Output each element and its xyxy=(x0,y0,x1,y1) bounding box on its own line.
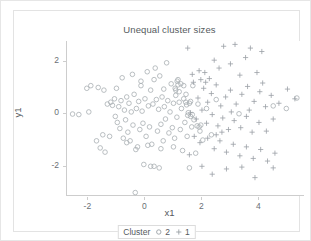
scatter-point xyxy=(162,104,167,109)
scatter-point xyxy=(171,101,176,106)
scatter-point xyxy=(254,70,259,75)
legend-entry-1[interactable]: 1 xyxy=(175,227,190,237)
x-tick-mark xyxy=(201,197,202,200)
plot-area-wrapper xyxy=(66,41,304,196)
scatter-point xyxy=(184,92,189,97)
scatter-point xyxy=(201,86,206,91)
scatter-point xyxy=(77,112,82,117)
scatter-point xyxy=(87,110,92,115)
scatter-point xyxy=(169,82,174,87)
scatter-point xyxy=(232,118,237,123)
scatter-point xyxy=(203,80,208,85)
scatter-point xyxy=(171,145,176,150)
scatter-point xyxy=(258,147,263,152)
scatter-point xyxy=(226,127,231,132)
scatter-point xyxy=(168,110,173,115)
scatter-point xyxy=(157,166,162,171)
scatter-point xyxy=(190,72,195,77)
scatter-point xyxy=(98,146,103,151)
scatter-point xyxy=(153,66,158,71)
scatter-point xyxy=(204,121,209,126)
scatter-point xyxy=(180,148,185,153)
y-tick-mark xyxy=(63,166,66,167)
scatter-point xyxy=(214,132,219,137)
scatter-point xyxy=(145,69,150,74)
scatter-point xyxy=(197,68,202,73)
scatter-point xyxy=(156,107,161,112)
scatter-point xyxy=(139,79,144,84)
scatter-point xyxy=(122,108,127,113)
scatter-point xyxy=(239,92,244,97)
legend-title: Cluster xyxy=(123,227,150,237)
scatter-point xyxy=(177,100,182,105)
scatter-point xyxy=(271,104,276,109)
scatter-point xyxy=(143,97,148,102)
scatter-point xyxy=(212,58,217,63)
scatter-point xyxy=(172,136,177,141)
scatter-point xyxy=(164,61,169,66)
scatter-point xyxy=(178,127,183,132)
scatter-point xyxy=(198,77,203,82)
scatter-point xyxy=(159,146,164,151)
x-tick-mark xyxy=(258,197,259,200)
scatter-series-1 xyxy=(185,42,297,180)
y-tick-mark xyxy=(63,113,66,114)
scatter-point xyxy=(202,70,207,75)
scatter-point xyxy=(142,162,147,167)
x-tick-label: 2 xyxy=(190,201,212,211)
scatter-point xyxy=(263,104,268,109)
x-tick-mark xyxy=(87,197,88,200)
scatter-point xyxy=(152,77,157,82)
scatter-point xyxy=(229,109,234,114)
scatter-point xyxy=(197,140,202,145)
scatter-point xyxy=(179,106,184,111)
scatter-point xyxy=(189,125,194,130)
scatter-point xyxy=(207,76,212,81)
scatter-point xyxy=(130,72,135,77)
screenshot-frame: Unequal cluster sizes y1 x1 20-2-2024 Cl… xyxy=(0,0,311,241)
scatter-point xyxy=(136,99,141,104)
scatter-point xyxy=(205,100,210,105)
scatter-point xyxy=(160,95,165,100)
scatter-point xyxy=(131,123,136,128)
scatter-point xyxy=(260,80,265,85)
scatter-point xyxy=(271,116,276,121)
scatter-point xyxy=(118,126,123,131)
scatter-point xyxy=(210,112,215,117)
scatter-point xyxy=(219,130,224,135)
scatter-point xyxy=(173,93,178,98)
scatter-point xyxy=(199,164,204,169)
scatter-point xyxy=(264,129,269,134)
scatter-point xyxy=(210,172,215,177)
scatter-point xyxy=(237,73,242,78)
scatter-point xyxy=(119,98,124,103)
scatter-point xyxy=(276,101,281,106)
scatter-point xyxy=(157,74,162,79)
scatter-point xyxy=(116,104,121,109)
scatter-point xyxy=(163,117,168,122)
scatter-point xyxy=(237,111,242,116)
scatter-point xyxy=(187,166,192,171)
scatter-point xyxy=(103,150,108,155)
scatter-point xyxy=(256,120,261,125)
scatter-point xyxy=(209,91,214,96)
scatter-point xyxy=(271,165,276,170)
scatter-point xyxy=(132,92,137,97)
scatter-point xyxy=(107,134,112,139)
scatter-point xyxy=(175,115,180,120)
scatter-point xyxy=(191,83,196,88)
legend-entry-2[interactable]: 2 xyxy=(155,227,170,237)
scatter-point xyxy=(252,175,257,180)
scatter-point xyxy=(199,107,204,112)
x-tick-label: 0 xyxy=(133,201,155,211)
scatter-point xyxy=(228,61,233,66)
scatter-point xyxy=(148,88,153,93)
scatter-point xyxy=(284,106,289,111)
y-tick-mark xyxy=(63,61,66,62)
scatter-point xyxy=(134,106,139,111)
scatter-point xyxy=(70,112,75,117)
scatter-point xyxy=(234,101,239,106)
scatter-point xyxy=(245,84,250,89)
scatter-point xyxy=(115,120,120,125)
x-tick-mark xyxy=(144,197,145,200)
